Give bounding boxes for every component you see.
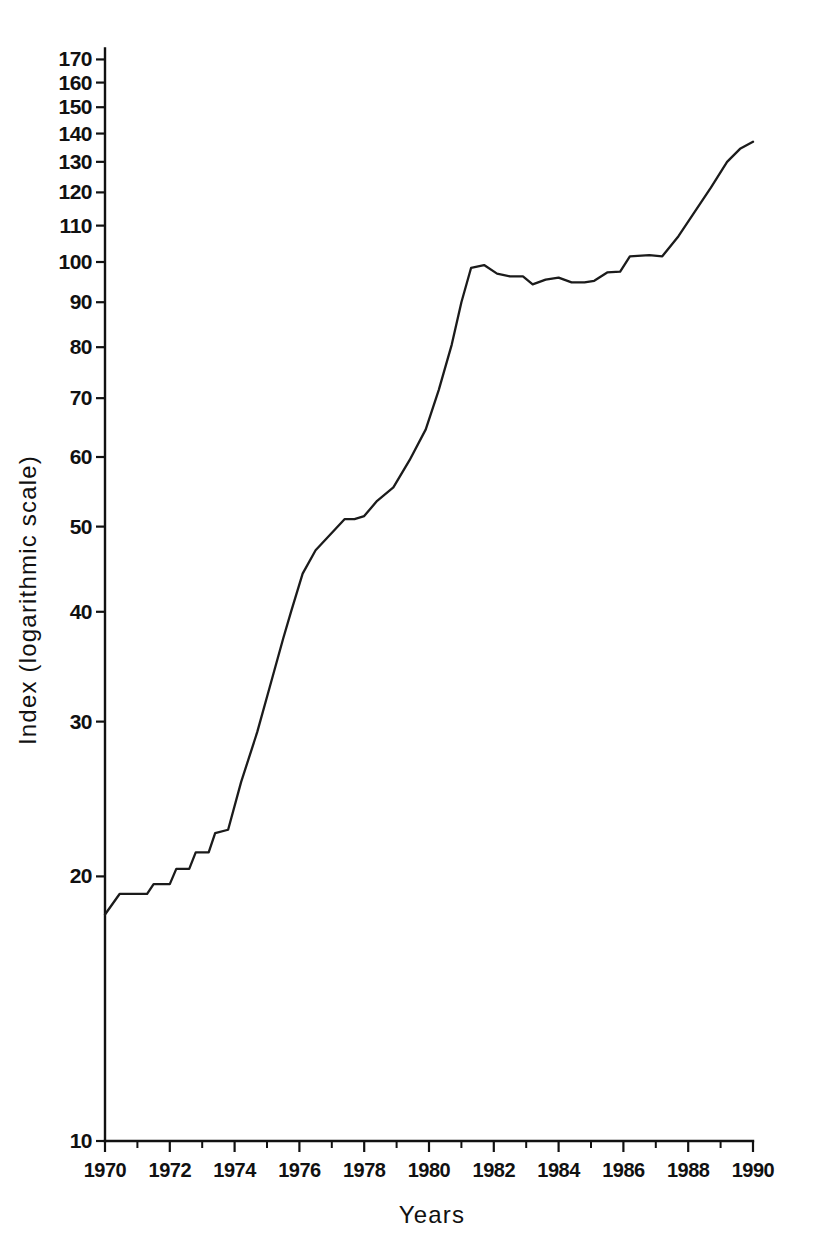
y-tick-label: 50 — [70, 515, 92, 538]
x-tick-label: 1972 — [149, 1159, 192, 1181]
y-tick-label: 160 — [58, 71, 92, 94]
y-tick-label: 80 — [70, 335, 92, 358]
y-tick-label: 110 — [60, 214, 92, 237]
y-tick-label: 150 — [58, 95, 92, 118]
x-tick-label: 1982 — [473, 1159, 516, 1181]
y-tick-label: 90 — [70, 290, 92, 313]
y-axis-title: Index (logarithmic scale) — [14, 455, 41, 745]
x-tick-label: 1978 — [343, 1159, 386, 1181]
data-line-index — [105, 142, 753, 915]
y-axis-ticks: 1020304050607080901001101201301401501601… — [58, 47, 105, 1152]
y-tick-label: 70 — [70, 386, 92, 409]
y-tick-label: 140 — [58, 122, 92, 145]
y-tick-label: 20 — [70, 864, 92, 887]
y-tick-label: 40 — [70, 600, 92, 623]
y-tick-label: 130 — [58, 150, 92, 173]
y-tick-label: 10 — [70, 1129, 92, 1152]
x-tick-label: 1974 — [213, 1159, 257, 1181]
y-tick-label: 170 — [58, 47, 92, 70]
line-chart: 1020304050607080901001101201301401501601… — [0, 0, 813, 1247]
y-tick-label: 60 — [70, 445, 92, 468]
x-tick-label: 1980 — [408, 1159, 451, 1181]
x-axis-title: Years — [399, 1201, 466, 1228]
y-tick-label: 120 — [58, 180, 92, 203]
x-axis-ticks: 1970197219741976197819801982198419861988… — [84, 1141, 775, 1181]
y-tick-label: 100 — [58, 250, 92, 273]
x-tick-label: 1986 — [602, 1159, 645, 1181]
x-tick-label: 1970 — [84, 1159, 127, 1181]
x-tick-label: 1990 — [732, 1159, 775, 1181]
y-tick-label: 30 — [70, 710, 92, 733]
x-tick-label: 1976 — [278, 1159, 321, 1181]
chart-container: 1020304050607080901001101201301401501601… — [0, 0, 813, 1247]
x-tick-label: 1988 — [667, 1159, 710, 1181]
x-tick-label: 1984 — [537, 1159, 581, 1181]
